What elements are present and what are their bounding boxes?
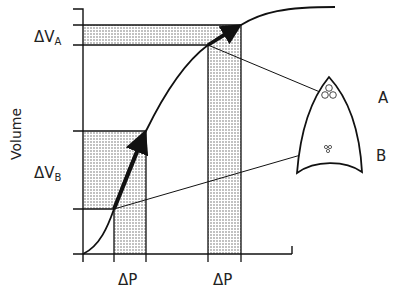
delta-v-b-label: ΔVB bbox=[34, 164, 62, 183]
delta-v-a-band bbox=[83, 25, 241, 45]
region-a-label: A bbox=[378, 89, 389, 107]
compliance-diagram: Volume ΔVA ΔVB ΔP ΔP A B bbox=[0, 0, 394, 294]
delta-p-left-column bbox=[114, 209, 146, 254]
delta-v-b-band bbox=[83, 131, 146, 209]
region-b-label: B bbox=[376, 147, 386, 165]
delta-p-right-column bbox=[208, 45, 241, 254]
y-axis-label: Volume bbox=[8, 108, 24, 160]
delta-p-left-label: ΔP bbox=[118, 271, 137, 289]
delta-p-right-label: ΔP bbox=[213, 271, 232, 289]
delta-v-a-label: ΔVA bbox=[34, 28, 62, 47]
